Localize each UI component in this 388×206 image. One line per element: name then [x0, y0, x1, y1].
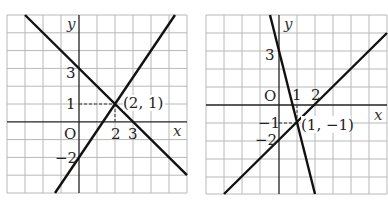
right-x-label: x: [374, 106, 383, 124]
left-xtick-3: 3: [128, 125, 138, 143]
left-ytick-3: 3: [66, 64, 76, 82]
right-ytick-neg1: −1: [258, 114, 280, 132]
right-xtick-1: 1: [292, 86, 302, 104]
left-intersection-label: (2, 1): [123, 94, 163, 112]
left-ytick-1: 1: [66, 95, 76, 113]
figure: y x O 3 1 −2 2 3 (2, 1): [0, 0, 388, 206]
right-origin-label: O: [264, 87, 276, 105]
right-ytick-neg2: −2: [255, 131, 277, 149]
right-ytick-3: 3: [265, 46, 275, 64]
right-xtick-2: 2: [311, 86, 321, 104]
left-xtick-2: 2: [111, 125, 121, 143]
right-graph: y x O 3 −1 −2 1 2 (1, −1): [206, 15, 387, 194]
left-x-label: x: [173, 122, 182, 140]
left-y-label: y: [66, 15, 76, 33]
right-line-2: [224, 33, 387, 194]
right-y-label: y: [283, 15, 293, 33]
left-ytick-neg2: −2: [55, 149, 77, 167]
left-graph: y x O 3 1 −2 2 3 (2, 1): [7, 15, 187, 193]
right-intersection-label: (1, −1): [301, 116, 354, 134]
left-origin-label: O: [64, 125, 76, 143]
